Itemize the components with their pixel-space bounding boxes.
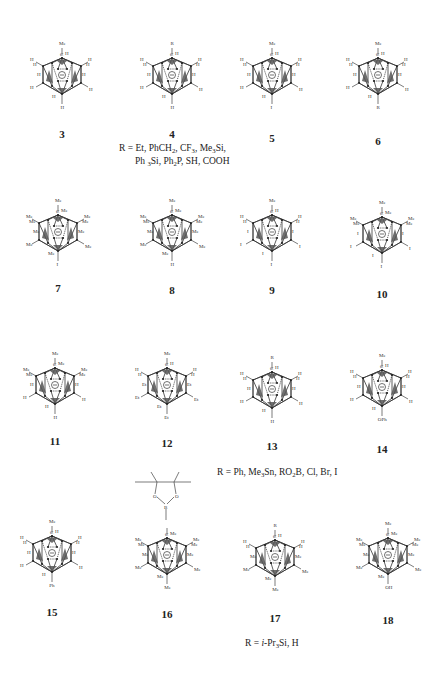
substituent-mid-right: H — [72, 550, 76, 555]
substituent-top: Me — [269, 41, 276, 46]
substituent-upper-right-2: H — [296, 376, 300, 381]
substituent-bottom-left: H — [262, 408, 266, 413]
r-note-17: R = i-Pr3Si, H — [245, 637, 299, 650]
substituent-top: Me — [55, 198, 62, 203]
substituent-mid-left: H — [37, 72, 41, 77]
compound-12: MeCHHHHHEtEtEtEtEtEt — [127, 340, 207, 430]
substituent-bottom: Me — [164, 585, 171, 590]
cage-carbon-label: C — [270, 52, 273, 57]
substituent-c-adjacent: Me — [385, 210, 392, 215]
r-note-4-line2: Ph 3Si, Ph2P, SH, COOH — [119, 155, 230, 168]
substituent-bottom: Et — [164, 415, 168, 420]
substituent-upper-left-2: H — [353, 374, 357, 379]
substituent-upper-right-2: Me — [82, 219, 89, 224]
cage-carbon-label: C — [56, 209, 59, 214]
substituent-bottom: I — [57, 262, 59, 267]
substituent-mid-right: H — [402, 384, 406, 389]
substituent-bottom: H — [271, 419, 275, 424]
compound-9: MeCHHHHHIIIIII — [232, 187, 312, 277]
cage-carbon-label: C — [53, 362, 56, 367]
substituent-bottom-left: H — [42, 572, 46, 577]
substituent-mid-right: I — [292, 229, 294, 234]
compound-5: MeCHHHHHHHHHHI — [232, 30, 312, 120]
substituent-upper-right-2: Me — [196, 219, 203, 224]
substituent-bottom-left: Et — [157, 404, 161, 409]
substituent-lower-right: H — [405, 87, 409, 92]
substituent-bottom: R — [377, 105, 380, 110]
substituent-top: Me — [269, 198, 276, 203]
substituent-top: R — [271, 355, 274, 360]
substituent-lower-left: I — [240, 242, 242, 247]
substituent-c-adjacent: H — [65, 51, 69, 56]
substituent-upper-left-2: H — [23, 540, 27, 545]
substituent-top: Me — [385, 521, 392, 526]
compound-number-5: 5 — [269, 132, 275, 144]
substituent-c-adjacent: H — [381, 51, 385, 56]
substituent-top: Me — [375, 41, 382, 46]
compound-number-3: 3 — [59, 128, 65, 140]
substituent-upper-left-2: H — [246, 544, 250, 549]
substituent-bottom: H — [54, 415, 58, 420]
cage-carbon-label: C — [270, 366, 273, 371]
compound-3: MeCHHHHHHHHHHH — [22, 30, 102, 120]
substituent-upper-right-2: H — [402, 62, 406, 67]
substituent-mid-left: Et — [142, 382, 146, 387]
substituent-lower-left: H — [140, 85, 144, 90]
substituent-upper-left-2: H — [243, 219, 247, 224]
substituent-lower-left: Me — [26, 242, 33, 247]
compound-8: MeCMeMeMeMeMeMeMeMeMeMeH — [132, 187, 212, 277]
substituent-mid-right: Me — [192, 229, 199, 234]
substituent-lower-right: H — [82, 397, 86, 402]
substituent-top: R — [171, 41, 174, 46]
substituent-lower-right: Me — [415, 567, 422, 572]
substituent-lower-left: H — [240, 85, 244, 90]
cage-carbon-label: C — [376, 52, 379, 57]
substituent-upper-left-2: Me — [138, 542, 145, 547]
substituent-upper-right-2: H — [296, 62, 300, 67]
substituent-mid-left: Me — [363, 552, 370, 557]
substituent-mid-left: Me — [142, 552, 149, 557]
substituent-bottom: H — [171, 262, 175, 267]
svg-text:B: B — [164, 505, 168, 510]
substituent-bottom: Me — [272, 587, 279, 592]
compound-number-7: 7 — [55, 282, 61, 294]
r-note-4-line1: R = Et, PhCH2, CF3, Me3Si, — [119, 142, 230, 155]
substituent-mid-right: H — [82, 72, 86, 77]
substituent-upper-right-2: H — [86, 62, 90, 67]
substituent-upper-right-2: Me — [406, 221, 413, 226]
substituent-lower-right: H — [89, 87, 93, 92]
compound-6: MeCHHHHHHHHHHR — [338, 30, 418, 120]
substituent-upper-right-2: Me — [191, 542, 198, 547]
substituent-top: R — [274, 523, 277, 528]
compound-number-14: 14 — [377, 443, 388, 455]
substituent-upper-left-2: H — [243, 376, 247, 381]
substituent-upper-left-2: Me — [353, 221, 360, 226]
substituent-bottom-left: H — [162, 94, 166, 99]
compound-number-17: 17 — [270, 612, 281, 624]
cage-carbon-label: C — [273, 534, 276, 539]
substituent-mid-left: H — [247, 386, 251, 391]
compound-number-13: 13 — [267, 440, 278, 452]
substituent-lower-right: H — [299, 401, 303, 406]
substituent-bottom: I — [271, 262, 273, 267]
substituent-lower-left: H — [240, 399, 244, 404]
substituent-upper-right-2: Me — [412, 542, 419, 547]
substituent-lower-left: I — [350, 244, 352, 249]
svg-text:O: O — [153, 494, 157, 499]
substituent-upper-right-2: Me — [79, 372, 86, 377]
substituent-c-adjacent: H — [170, 361, 174, 366]
substituent-mid-left: H — [247, 72, 251, 77]
substituent-bottom-left: H — [52, 94, 56, 99]
r-note-4: R = Et, PhCH2, CF3, Me3Si, Ph 3Si, Ph2P,… — [119, 142, 230, 168]
substituent-mid-right: H — [292, 386, 296, 391]
substituent-upper-left-2: H — [243, 62, 247, 67]
cage-carbon-label: C — [170, 209, 173, 214]
cage-carbon-label: C — [380, 211, 383, 216]
substituent-bottom-left: H — [45, 404, 49, 409]
compound-number-4: 4 — [169, 128, 175, 140]
cage-carbon-label: C — [170, 52, 173, 57]
substituent-c-adjacent: H — [278, 533, 282, 538]
substituent-upper-right-2: H — [76, 540, 80, 545]
substituent-upper-left-2: H — [349, 62, 353, 67]
compound-15: MeCHHHHHHHHHHPh — [12, 508, 92, 598]
